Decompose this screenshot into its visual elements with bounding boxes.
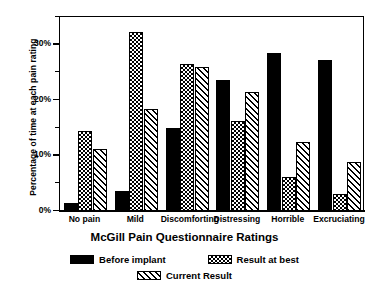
bar-group — [166, 16, 209, 211]
bar — [115, 191, 129, 211]
legend-swatch-hatch-icon — [137, 271, 161, 280]
legend-item-current-result: Current Result — [137, 270, 232, 281]
legend-label: Result at best — [237, 254, 299, 265]
bar — [267, 53, 281, 211]
bar — [282, 177, 296, 211]
bar — [166, 128, 180, 211]
bar-group — [64, 16, 107, 211]
y-tick-label: 20% — [7, 94, 51, 104]
legend-label: Current Result — [166, 270, 232, 281]
legend-item-result-at-best: Result at best — [208, 254, 299, 265]
legend-swatch-checker-icon — [208, 255, 232, 264]
bar-group — [115, 16, 158, 211]
bar — [64, 203, 78, 211]
bar — [129, 32, 143, 211]
legend-label: Before implant — [99, 254, 166, 265]
x-axis-title: McGill Pain Questionnaire Ratings — [0, 231, 369, 243]
bar-chart: Percentage of time at each pain rating 0… — [0, 0, 369, 289]
bar — [180, 64, 194, 211]
x-tick-label: No pain — [59, 214, 110, 224]
x-tick-label: Discomforting — [161, 214, 212, 224]
bar — [144, 109, 158, 211]
y-axis-title: Percentage of time at each pain rating — [28, 22, 38, 212]
bar — [93, 149, 107, 211]
bar — [78, 131, 92, 211]
bar — [296, 142, 310, 211]
bar — [216, 80, 230, 211]
bar — [333, 194, 347, 211]
x-tick-label: Excruciating — [313, 214, 364, 224]
bar — [195, 67, 209, 211]
x-axis-tick-labels: No painMildDiscomfortingDistressingHorri… — [59, 214, 364, 230]
x-tick-label: Horrible — [262, 214, 313, 224]
y-tick-label: 10% — [7, 149, 51, 159]
bar-group — [216, 16, 259, 211]
bar — [231, 121, 245, 211]
bar — [347, 162, 361, 211]
x-tick-label: Mild — [110, 214, 161, 224]
legend-swatch-solid-icon — [70, 255, 94, 264]
x-tick-label: Distressing — [212, 214, 263, 224]
legend-item-before-implant: Before implant — [70, 254, 166, 265]
bar-groups — [59, 16, 364, 211]
bar — [318, 60, 332, 211]
bar — [245, 92, 259, 211]
y-tick-label: 0% — [7, 205, 51, 215]
bar-group — [267, 16, 310, 211]
bar-group — [318, 16, 361, 211]
chart-legend: Before implant Result at best Current Re… — [0, 254, 369, 288]
y-tick-label: 30% — [7, 38, 51, 48]
